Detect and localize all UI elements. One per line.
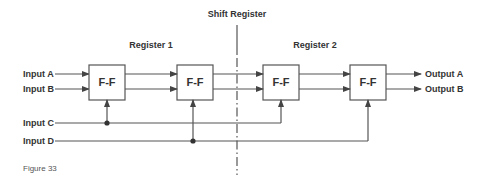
input-d-label: Input D	[23, 136, 54, 146]
ff1-to-ff2-wires	[125, 74, 177, 89]
input-b-label: Input B	[23, 84, 54, 94]
ff1-label: F-F	[98, 76, 115, 88]
flip-flop-1: F-F	[89, 65, 125, 100]
ff3-to-ff4-wires	[299, 74, 350, 89]
output-b-label: Output B	[425, 84, 464, 94]
input-c-clock-wire	[55, 100, 281, 126]
junction-dot-c	[104, 120, 109, 125]
ff3-label: F-F	[272, 76, 289, 88]
ff2-label: F-F	[186, 76, 203, 88]
shift-register-title: Shift Register	[208, 9, 267, 19]
input-a-label: Input A	[23, 69, 54, 79]
junction-dot-d	[190, 138, 195, 143]
ff4-label: F-F	[359, 76, 376, 88]
input-d-clock-wire	[55, 100, 368, 144]
input-c-label: Input C	[23, 118, 54, 128]
ff2-to-ff3-wires	[213, 74, 263, 89]
flip-flop-3: F-F	[263, 65, 299, 100]
figure-caption: Figure 33	[23, 164, 57, 173]
register-2-label: Register 2	[293, 40, 337, 50]
output-a-label: Output A	[425, 69, 464, 79]
register-1-label: Register 1	[129, 40, 173, 50]
shift-register-diagram: Shift Register Register 1 Register 2 Inp…	[0, 0, 477, 182]
flip-flop-2: F-F	[177, 65, 213, 100]
flip-flop-4: F-F	[350, 65, 386, 100]
